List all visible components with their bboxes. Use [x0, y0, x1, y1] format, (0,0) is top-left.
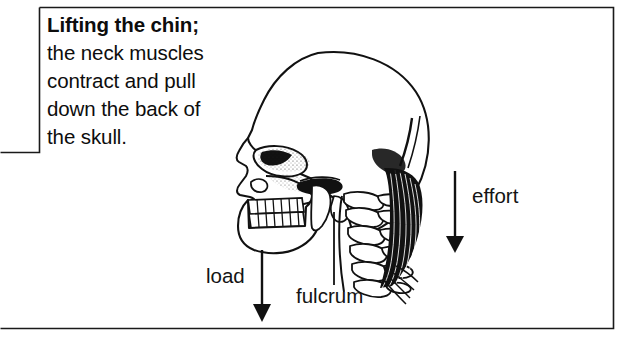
nasal-aperture — [251, 179, 268, 192]
load-label: load — [206, 266, 245, 287]
fulcrum-label: fulcrum — [296, 286, 363, 307]
effort-label: effort — [472, 186, 518, 207]
figure-panel: Lifting the chin; the neck muscles contr… — [0, 0, 629, 344]
